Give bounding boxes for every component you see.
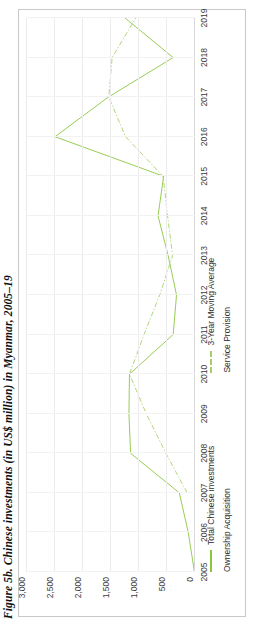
- y-axis-tick-label: 3,000: [17, 577, 27, 598]
- legend-item-label: Total Chinese investments: [206, 446, 216, 545]
- x-gridline: [27, 96, 195, 97]
- legend-item-label: Ownership Acquisition: [222, 488, 232, 572]
- x-gridline: [27, 492, 195, 493]
- figure-title: Figure 5b. Chinese investments (in US$ m…: [2, 7, 14, 619]
- x-gridline: [27, 17, 195, 18]
- x-gridline: [27, 215, 195, 216]
- y-axis-tick-label: 2,500: [45, 577, 55, 598]
- legend-swatch-dash-dot-icon: [210, 351, 212, 373]
- x-gridline: [27, 373, 195, 374]
- y-axis-tick-label: 500: [157, 577, 167, 591]
- x-gridline: [27, 531, 195, 532]
- x-gridline: [27, 334, 195, 335]
- y-axis-tick-label: 0: [185, 577, 195, 582]
- x-gridline: [27, 254, 195, 255]
- legend-item[interactable]: Total Chinese investments: [206, 446, 216, 572]
- y-gridline: [110, 18, 111, 572]
- y-gridline: [138, 18, 139, 572]
- x-gridline: [27, 452, 195, 453]
- chart-legend: Ownership AcquisitionService ProvisionTo…: [205, 18, 239, 572]
- chart-panel: 05001,0001,5002,0002,5003,00020052006200…: [18, 9, 246, 617]
- x-gridline: [27, 294, 195, 295]
- y-gridline: [82, 18, 83, 572]
- legend-item[interactable]: 3-Year Moving Average: [206, 258, 216, 373]
- y-axis-tick-label: 2,000: [73, 577, 83, 598]
- y-gridline: [26, 18, 27, 572]
- legend-item-label: 3-Year Moving Average: [206, 258, 216, 346]
- legend-item-label: Service Provision: [222, 307, 232, 373]
- x-gridline: [27, 136, 195, 137]
- y-gridline: [54, 18, 55, 572]
- x-gridline: [27, 571, 195, 572]
- figure-upright-container: Figure 5b. Chinese investments (in US$ m…: [0, 0, 253, 625]
- legend-item[interactable]: Ownership Acquisition: [222, 488, 232, 572]
- y-axis-tick-label: 1,500: [101, 577, 111, 598]
- y-axis-tick-label: 1,000: [129, 577, 139, 598]
- x-axis-line: [194, 18, 195, 572]
- x-gridline: [27, 57, 195, 58]
- y-gridline: [166, 18, 167, 572]
- rotated-page-wrapper: Figure 5b. Chinese investments (in US$ m…: [0, 0, 253, 625]
- series-line: [55, 18, 194, 572]
- legend-item[interactable]: Service Provision: [222, 307, 232, 373]
- x-gridline: [27, 175, 195, 176]
- x-gridline: [27, 413, 195, 414]
- figure: Figure 5b. Chinese investments (in US$ m…: [0, 0, 253, 625]
- plot-area: 05001,0001,5002,0002,5003,00020052006200…: [27, 18, 195, 572]
- legend-swatch-solid-icon: [210, 550, 212, 572]
- series-lines: [27, 18, 195, 572]
